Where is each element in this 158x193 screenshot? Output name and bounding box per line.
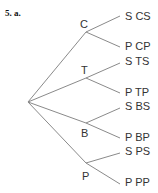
branch-c-s — [86, 16, 120, 32]
outcome-ts: TS — [135, 55, 149, 67]
leaf-b-p: P BP — [125, 132, 150, 143]
branch-root-p — [28, 102, 86, 163]
branch-p-p — [86, 163, 120, 184]
leaf-b-s: S BS — [125, 101, 150, 112]
branch-b-s — [86, 108, 120, 123]
leaf-p-s: S PS — [125, 146, 150, 157]
node-label-p: P — [82, 171, 89, 182]
outcome-bp: BP — [135, 131, 150, 143]
outcome-pp: PP — [135, 176, 150, 188]
branch-t-s — [86, 63, 120, 78]
leaf-c-s: S CS — [125, 11, 151, 22]
branch-root-c — [28, 32, 86, 102]
branch-root-b — [28, 102, 86, 123]
branch-t-p — [86, 78, 120, 93]
branch-root-t — [28, 78, 86, 102]
branch-b-p — [86, 123, 120, 138]
outcome-cp: CP — [135, 40, 150, 52]
branch-p-s — [86, 153, 120, 163]
leaf-p-p: P PP — [125, 177, 150, 188]
outcome-ps: PS — [135, 145, 150, 157]
node-label-b: B — [81, 128, 88, 139]
node-label-t: T — [81, 65, 88, 76]
outcome-bs: BS — [135, 100, 150, 112]
branch-c-p — [86, 32, 120, 47]
node-label-c: C — [80, 19, 88, 30]
outcome-tp: TP — [135, 86, 149, 98]
leaf-c-p: P CP — [125, 41, 150, 52]
leaf-t-p: P TP — [125, 87, 149, 98]
leaf-t-s: S TS — [125, 56, 149, 67]
outcome-cs: CS — [135, 10, 150, 22]
